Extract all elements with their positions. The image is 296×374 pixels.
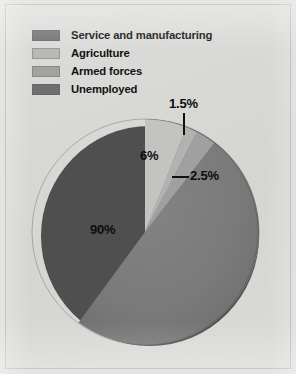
pie-chart [0, 0, 296, 374]
pie-chart-svg [0, 0, 296, 374]
leader-line-1-5 [183, 113, 185, 135]
pie-label-90-percent: 90% [90, 222, 115, 237]
chart-page: Service and manufacturing Agriculture Ar… [0, 0, 296, 374]
pie-label-1-5-percent: 1.5% [169, 96, 198, 111]
pie-label-6-percent: 6% [140, 148, 158, 163]
pie-label-2-5-percent: 2.5% [190, 168, 219, 183]
leader-line-2-5 [172, 176, 189, 178]
